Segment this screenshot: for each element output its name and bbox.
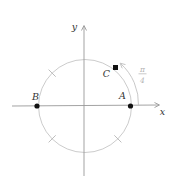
angle-fraction-numerator: π: [139, 65, 146, 74]
point-b-marker: [34, 103, 39, 108]
point-a-marker: [128, 103, 133, 108]
angle-fraction: π 4: [139, 65, 147, 85]
point-b-label: B: [31, 91, 39, 102]
figure-canvas: y x A B C π 4: [0, 0, 170, 191]
angle-fraction-denominator: 4: [139, 76, 145, 85]
x-axis-label: x: [160, 106, 166, 117]
math-figure: y x A B C π 4: [0, 0, 170, 191]
x-axis: [12, 105, 159, 106]
point-a-label: A: [118, 90, 126, 101]
y-axis-label: y: [71, 21, 78, 32]
point-c-marker: [113, 65, 118, 70]
point-c-label: C: [103, 68, 111, 79]
